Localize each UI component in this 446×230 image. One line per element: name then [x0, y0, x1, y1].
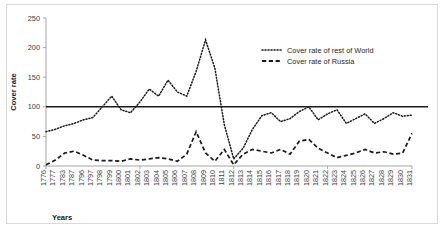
x-axis-tick-label: 1822 — [321, 170, 330, 186]
x-axis-tick-label: 1831 — [405, 170, 414, 186]
x-axis-tick-label: 1827 — [367, 170, 376, 186]
y-axis-tick-label: 0 — [36, 162, 40, 171]
x-axis-tick-label: 1820 — [302, 170, 311, 186]
x-axis-tick-label: 1823 — [330, 170, 339, 186]
x-axis-tick-label: 1815 — [255, 170, 264, 186]
x-axis-tick-label: 1802 — [133, 170, 142, 186]
x-axis-tick-label: 1798 — [95, 170, 104, 186]
legend-label-russia: Cover rate of Russia — [287, 57, 355, 66]
x-axis-tick-label: 1828 — [377, 170, 386, 186]
x-axis-tick-label: 1826 — [358, 170, 367, 186]
series-line-russia — [46, 132, 412, 165]
x-axis-tick-label: 1821 — [311, 170, 320, 186]
x-axis-title: Years — [52, 213, 72, 222]
x-axis-tick-label: 1818 — [283, 170, 292, 186]
x-axis-tick-label: 1777 — [48, 170, 57, 186]
x-axis-tick-label: 1816 — [264, 170, 273, 186]
y-axis-title: Cover rate — [9, 73, 18, 111]
x-axis-tick-label: 1830 — [396, 170, 405, 186]
x-axis-tick-label: 1776 — [39, 170, 48, 186]
legend-label-world: Cover rate of rest of World — [287, 46, 374, 55]
x-axis-tick-label: 1808 — [189, 170, 198, 186]
y-axis-tick-label: 200 — [28, 43, 40, 52]
x-axis-tick-label: 1800 — [114, 170, 123, 186]
x-axis-tick-label: 1801 — [123, 170, 132, 186]
x-axis-tick-label: 1829 — [386, 170, 395, 186]
x-axis-tick-label: 1805 — [161, 170, 170, 186]
x-axis-tick-label: 1824 — [339, 170, 348, 186]
x-axis-tick-label: 1796 — [77, 170, 86, 186]
x-axis-tick-label: 1825 — [349, 170, 358, 186]
chart-canvas: 050100150200250Cover rate177617771783178… — [0, 0, 446, 230]
x-axis-tick-label: 1810 — [208, 170, 217, 186]
x-axis-tick-label: 1811 — [217, 170, 226, 185]
y-axis-tick-label: 250 — [28, 14, 40, 23]
x-axis-tick-label: 1783 — [58, 170, 67, 186]
x-axis-tick-label: 1814 — [245, 170, 254, 186]
x-axis-tick-label: 1797 — [86, 170, 95, 186]
y-axis-tick-label: 100 — [28, 102, 40, 111]
line-chart: 050100150200250Cover rate177617771783178… — [0, 0, 446, 230]
x-axis-tick-label: 1812 — [227, 170, 236, 186]
y-axis-tick-label: 50 — [32, 132, 40, 141]
x-axis-tick-label: 1819 — [292, 170, 301, 186]
x-axis-tick-label: 1803 — [142, 170, 151, 186]
x-axis-tick-label: 1809 — [199, 170, 208, 186]
series-line-world — [46, 40, 412, 159]
x-axis-tick-label: 1787 — [67, 170, 76, 186]
x-axis-tick-label: 1804 — [152, 170, 161, 186]
y-axis-tick-label: 150 — [28, 73, 40, 82]
x-axis-tick-label: 1806 — [170, 170, 179, 186]
x-axis-tick-label: 1807 — [180, 170, 189, 186]
x-axis-tick-label: 1817 — [274, 170, 283, 186]
x-axis-tick-label: 1799 — [105, 170, 114, 186]
x-axis-tick-label: 1813 — [236, 170, 245, 186]
